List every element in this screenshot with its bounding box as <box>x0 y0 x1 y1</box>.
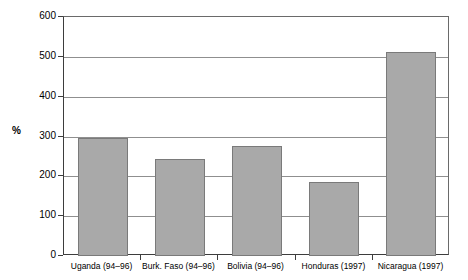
bar-chart: % 0100200300400500600 Uganda (94–96)Burk… <box>0 0 468 280</box>
bar <box>78 138 128 256</box>
y-axis-tick-label: 600 <box>4 11 56 21</box>
y-axis-tick <box>58 56 63 57</box>
y-axis-tick-label: 0 <box>4 250 56 260</box>
y-axis-tick <box>58 136 63 137</box>
y-axis-tick-label: 100 <box>4 210 56 220</box>
y-axis-tick-label: 400 <box>4 91 56 101</box>
x-axis-tick <box>140 255 141 260</box>
y-axis-tick <box>58 215 63 216</box>
x-axis-category-label: Honduras (1997) <box>295 261 372 271</box>
bar <box>309 182 359 256</box>
x-axis-category-label: Bolivia (94–96) <box>217 261 294 271</box>
y-axis-labels: 0100200300400500600 <box>0 0 56 280</box>
bar <box>155 159 205 256</box>
y-axis-tick <box>58 255 63 256</box>
x-axis-tick <box>372 255 373 260</box>
bar <box>232 146 282 256</box>
y-axis-tick-label: 200 <box>4 170 56 180</box>
y-axis-tick-label: 300 <box>4 131 56 141</box>
x-axis-tick <box>217 255 218 260</box>
plot-area <box>63 16 449 255</box>
y-axis-tick <box>58 175 63 176</box>
y-axis-tick <box>58 16 63 17</box>
x-axis-tick <box>295 255 296 260</box>
bar <box>386 52 436 256</box>
y-axis-tick <box>58 96 63 97</box>
x-axis-category-label: Uganda (94–96) <box>63 261 140 271</box>
y-axis-tick-label: 500 <box>4 51 56 61</box>
x-axis-category-label: Burk. Faso (94–96) <box>140 261 217 271</box>
x-axis-category-label: Nicaragua (1997) <box>372 261 449 271</box>
